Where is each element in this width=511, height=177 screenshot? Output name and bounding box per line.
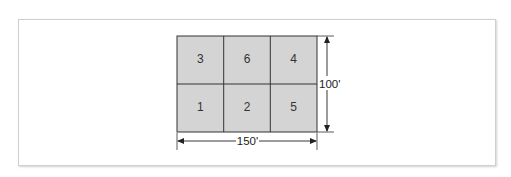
cell-label-4: 4 xyxy=(290,52,297,66)
cell-label-5: 5 xyxy=(290,100,297,114)
cell-label-1: 1 xyxy=(197,100,204,114)
cell-label-6: 6 xyxy=(244,52,251,66)
cell-label-2: 2 xyxy=(244,100,251,114)
cell-label-3: 3 xyxy=(197,52,204,66)
height-dimension-label: 100' xyxy=(319,78,340,90)
width-dimension-label: 150' xyxy=(237,135,258,147)
plot-layout-diagram: 3 6 4 1 2 5 100' 150' xyxy=(0,0,511,177)
